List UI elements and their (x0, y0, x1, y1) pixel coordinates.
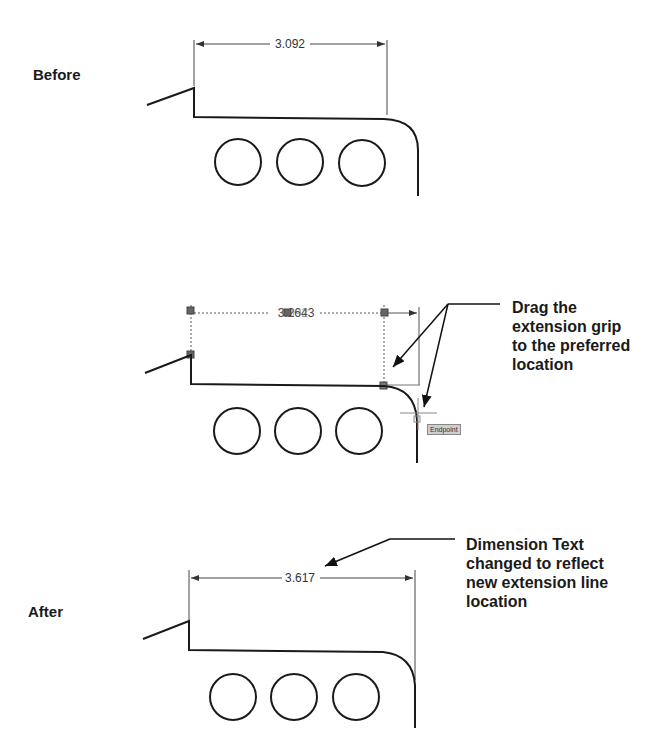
dimension-text[interactable]: 3.617 (285, 571, 315, 585)
before-drawing: 3.092 (147, 37, 418, 196)
crosshair-cursor-icon (400, 398, 437, 430)
leader-arrow-icon (393, 304, 500, 407)
grip-dimline-left[interactable] (187, 307, 194, 314)
hole-2 (271, 674, 317, 720)
hole-1 (214, 408, 260, 454)
hole-1 (210, 674, 256, 720)
hole-2 (275, 408, 321, 454)
dimension-text[interactable]: 3.092 (275, 37, 305, 51)
drawing-canvas: 3.092 3.2643 3.092 (0, 0, 652, 755)
hole-3 (333, 674, 379, 720)
hole-2 (277, 139, 323, 185)
grip-text[interactable] (284, 309, 291, 316)
after-drawing: 3.617 (143, 539, 455, 728)
old-dimension-text-ghost: 3.092 (278, 306, 308, 320)
grip-dimline-right[interactable] (381, 309, 388, 316)
hole-3 (336, 408, 382, 454)
hole-1 (215, 139, 261, 185)
hole-3 (339, 140, 385, 186)
during-drawing: 3.2643 3.092 (145, 304, 500, 463)
leader-arrow-icon (325, 539, 455, 566)
